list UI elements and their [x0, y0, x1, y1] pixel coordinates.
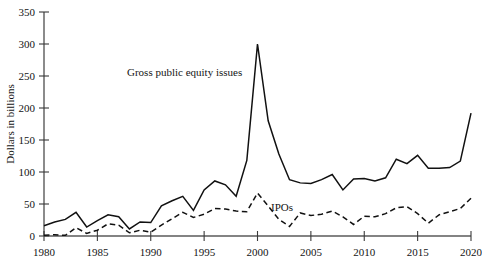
y-tick-label: 100 [19, 166, 36, 178]
x-tick-label: 2005 [300, 246, 323, 258]
y-tick-label: 200 [19, 102, 36, 114]
x-axis-tick-labels: 198019851990199520002005201020152020 [33, 246, 482, 258]
y-axis-tick-labels: 050100150200250300350 [19, 6, 36, 242]
x-tick-label: 1995 [193, 246, 216, 258]
equity-issues-chart: 050100150200250300350 198019851990199520… [0, 0, 482, 264]
x-tick-label: 1980 [33, 246, 56, 258]
x-tick-label: 2015 [407, 246, 430, 258]
x-tick-label: 1985 [86, 246, 109, 258]
y-tick-label: 300 [19, 38, 36, 50]
x-tick-label: 2020 [460, 246, 482, 258]
x-axis: 198019851990199520002005201020152020 [33, 231, 482, 258]
x-tick-label: 2010 [353, 246, 376, 258]
x-tick-label: 1990 [140, 246, 163, 258]
y-tick-label: 50 [24, 198, 36, 210]
y-tick-label: 350 [19, 6, 36, 18]
series-annotation-gross-public-equity-issues: Gross public equity issues [127, 66, 242, 78]
series-line-gross-public-equity-issues [44, 44, 471, 229]
x-tick-label: 2000 [247, 246, 270, 258]
y-tick-label: 0 [30, 230, 36, 242]
y-axis-title: Dollars in billions [4, 84, 16, 163]
chart-canvas: 050100150200250300350 198019851990199520… [0, 0, 482, 264]
y-tick-label: 250 [19, 70, 36, 82]
y-axis: 050100150200250300350 [19, 6, 50, 242]
y-tick-label: 150 [19, 134, 36, 146]
series-annotation-ipos: IPOs [271, 201, 293, 213]
